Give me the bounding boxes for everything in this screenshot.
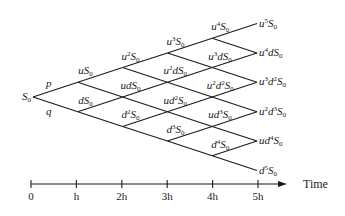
time-axis-title: Time xyxy=(303,177,328,192)
tree-node-label: ud2S0 xyxy=(163,95,187,106)
tree-node-label: uS0 xyxy=(78,65,93,76)
tree-node-label: u4S0 xyxy=(211,21,229,32)
tree-node-label: ud4S0 xyxy=(259,135,283,146)
tree-node-label: u3dS0 xyxy=(208,51,232,62)
tree-node-label: u3S0 xyxy=(166,36,184,47)
tree-node-label: ud3S0 xyxy=(208,109,232,120)
down-branch-edge xyxy=(33,97,78,112)
time-axis-tick-label: 0 xyxy=(28,191,34,202)
up-branch-edge xyxy=(33,82,78,97)
tree-node-label: dS0 xyxy=(78,95,93,106)
tree-node-label: d3S0 xyxy=(166,124,184,135)
down-probability-label: q xyxy=(46,105,52,117)
tree-node-label: d5S0 xyxy=(259,165,277,176)
down-branch-edge xyxy=(212,156,257,171)
time-axis-tick-label: 4h xyxy=(207,191,218,202)
down-branch-edge xyxy=(123,126,168,141)
time-axis-arrow-icon xyxy=(278,181,287,187)
tree-node-label: u4dS0 xyxy=(259,47,283,58)
tree-node-label: u3d2S0 xyxy=(259,76,286,87)
time-axis-tick-label: 2h xyxy=(116,191,127,202)
tree-node-label: d2S0 xyxy=(122,109,140,120)
down-branch-edge xyxy=(78,112,123,127)
tree-node-label: d4S0 xyxy=(211,139,229,150)
tree-node-label: u2d2S0 xyxy=(207,80,234,91)
time-axis-tick-label: 3h xyxy=(162,191,173,202)
time-axis-tick-label: h xyxy=(74,191,80,202)
tree-node-label: u2d3S0 xyxy=(259,106,286,117)
tree-node-label: udS0 xyxy=(121,80,141,91)
time-axis-tick-label: 5h xyxy=(253,191,264,202)
tree-node-label: S0 xyxy=(22,91,31,102)
tree-node-label: u2S0 xyxy=(122,51,140,62)
tree-node-label: u5S0 xyxy=(259,18,277,29)
up-probability-label: p xyxy=(46,77,52,89)
tree-node-label: u2dS0 xyxy=(163,65,187,76)
down-branch-edge xyxy=(167,141,212,156)
